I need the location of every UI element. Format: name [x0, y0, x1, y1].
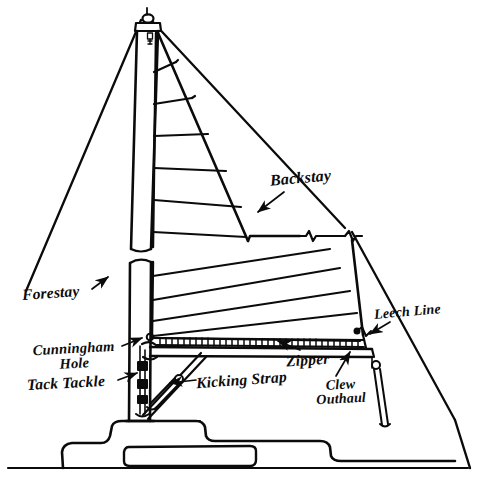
label-leader-arrows: [0, 0, 490, 487]
leader-leech-line: [370, 322, 390, 334]
leader-backstay: [258, 192, 284, 212]
leader-cunningham: [122, 338, 142, 346]
leader-forestay: [92, 277, 108, 289]
diagram-canvas: Forestay Backstay Leech Line Cunningham …: [0, 0, 490, 487]
leader-tack-tackle: [118, 373, 137, 380]
leader-kicking-strap: [170, 380, 196, 383]
leader-zipper: [278, 341, 300, 350]
leader-clew-outhaul: [336, 352, 350, 376]
